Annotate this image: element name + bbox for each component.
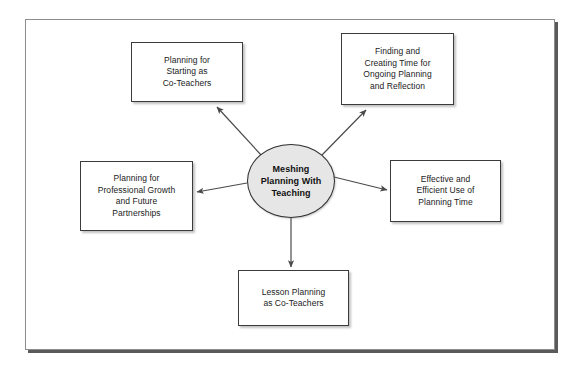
node-planning-for-starting-as-co-teachers[interactable]: Planning for Starting as Co-Teachers (131, 42, 243, 102)
center-node-label: Meshing Planning With Teaching (261, 163, 322, 199)
node-planning-for-professional-growth[interactable]: Planning for Professional Growth and Fut… (80, 161, 193, 231)
node-label: Planning for Starting as Co-Teachers (159, 55, 216, 90)
node-center-meshing-planning-with-teaching[interactable]: Meshing Planning With Teaching (247, 144, 335, 218)
node-finding-and-creating-time[interactable]: Finding and Creating Time for Ongoing Pl… (341, 33, 454, 105)
node-label: Planning for Professional Growth and Fut… (94, 173, 179, 219)
node-label: Effective and Efficient Use of Planning … (413, 174, 479, 209)
node-label: Finding and Creating Time for Ongoing Pl… (359, 46, 435, 92)
node-effective-and-efficient-use[interactable]: Effective and Efficient Use of Planning … (390, 160, 501, 222)
diagram-canvas: Planning for Starting as Co-Teachers Fin… (0, 0, 581, 371)
node-label: Lesson Planning as Co-Teachers (258, 287, 330, 310)
node-lesson-planning-as-co-teachers[interactable]: Lesson Planning as Co-Teachers (238, 270, 349, 326)
